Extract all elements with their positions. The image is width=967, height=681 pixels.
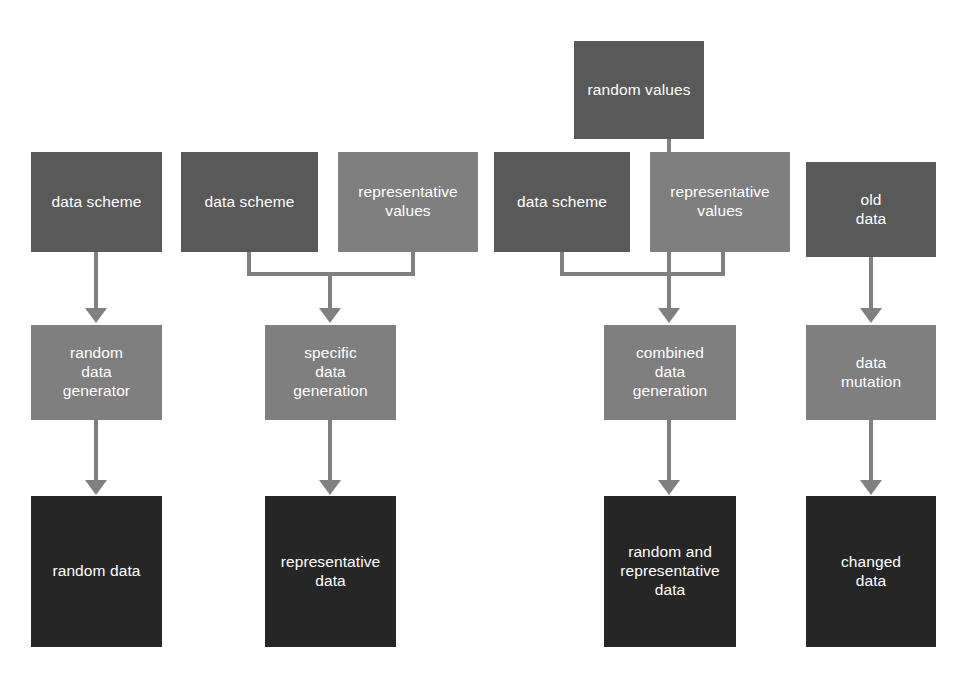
connector-n2-to-n3-stem [94,420,98,482]
connector-n6-to-n7-arrowhead [319,480,341,495]
connector-merge-stem-2 [328,272,332,310]
connector-merge-bar-3 [560,272,725,276]
connector-n14-to-n15-arrowhead [860,480,882,495]
node-random-data-generator[interactable]: random data generator [31,325,162,420]
connector-n1-to-n2-arrowhead [85,308,107,323]
node-representative-values-1[interactable]: representative values [338,152,478,252]
node-data-scheme-1[interactable]: data scheme [31,152,162,252]
node-random-and-representative-data[interactable]: random and representative data [604,496,736,647]
node-representative-values-2[interactable]: representative values [650,152,790,252]
node-data-scheme-3[interactable]: data scheme [494,152,630,252]
node-combined-data-generation[interactable]: combined data generation [604,325,736,420]
connector-n14-to-n15-stem [869,420,873,482]
node-representative-data[interactable]: representative data [265,496,396,647]
node-specific-data-generation[interactable]: specific data generation [265,325,396,420]
node-random-data[interactable]: random data [31,496,162,647]
connector-n6-to-n7-stem [328,420,332,482]
connector-merge-arrowhead-3 [658,308,680,323]
node-old-data[interactable]: old data [806,162,936,257]
connector-n11-to-n12-stem [667,420,671,482]
connector-n1-to-n2-stem [94,252,98,310]
connector-n13-to-n14-arrowhead [860,308,882,323]
diagram-canvas: data scheme random data generator random… [0,0,967,681]
node-data-mutation[interactable]: data mutation [806,325,936,420]
node-changed-data[interactable]: changed data [806,496,936,647]
connector-merge-stem-3 [667,272,671,310]
node-data-scheme-2[interactable]: data scheme [181,152,318,252]
connector-n11-to-n12-arrowhead [658,480,680,495]
connector-n2-to-n3-arrowhead [85,480,107,495]
connector-merge-arrowhead-2 [319,308,341,323]
connector-n13-to-n14-stem [869,257,873,310]
node-random-values[interactable]: random values [574,41,704,139]
